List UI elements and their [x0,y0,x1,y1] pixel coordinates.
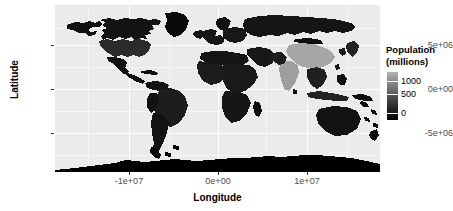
legend-label-1000: 1000 [401,77,421,86]
country-southeast-asia [307,67,327,89]
world-population-map-figure: Latitude 5e+06 0e+00 -5e+06 [0,0,453,211]
country-mexico [107,57,129,75]
country-new-zealand [369,129,379,141]
country-russia [243,15,355,37]
y-tick-mark-neg5e06 [51,133,54,134]
island-falklands [165,152,171,157]
country-canada [99,18,161,40]
country-central-america [127,73,145,84]
x-tick-mark-neg1e07 [129,172,130,175]
x-tick-mark-0e00 [218,172,219,175]
region-southern-africa [222,91,251,123]
y-axis-title: Latitude [9,40,20,120]
region-europe-east [223,27,247,43]
y-tick-mark-5e06 [51,45,54,46]
country-united-states [99,39,151,57]
legend-tick-1000 [387,81,398,82]
x-tick-mark-1e07 [307,172,308,175]
region-central-east-africa [222,65,258,93]
country-taiwan [335,64,340,70]
legend-label-0: 0 [401,109,406,118]
x-axis-title: Longitude [55,192,380,203]
region-europe-west [202,29,225,45]
legend-label-500: 500 [401,90,416,99]
country-british-isles [193,30,204,39]
country-mongolia [294,38,323,44]
country-caribbean [141,70,159,75]
legend-tick-500 [387,94,398,95]
country-madagascar [253,101,262,117]
countries-layer [55,12,380,172]
x-tick-label-1e07: 1e+07 [277,176,337,186]
x-tick-label-neg1e07: -1e+07 [99,176,159,186]
country-canada-alaska [67,21,103,36]
legend-colorbar-group: 1000 500 0 [386,72,453,124]
world-map-layer [55,5,380,172]
x-tick-label-0e00: 0e+00 [188,176,248,186]
legend-tick-0 [387,113,398,114]
country-australia [316,106,361,136]
country-new-guinea [351,94,373,101]
legend-title-line2: (millions) [386,56,453,68]
country-sri-lanka [293,89,297,94]
legend-title-line1: Population [386,44,453,56]
continent-antarctica [55,155,380,172]
country-philippines [337,74,347,85]
y-tick-label-neg5e06: -5e+06 [407,128,453,138]
country-indonesia [307,91,349,101]
legend: Population (millions) 1000 500 0 [386,44,453,124]
y-tick-mark-0e00 [51,89,54,90]
country-korea [339,48,346,56]
country-greenland [165,12,189,37]
island-south-georgia [173,145,179,150]
country-japan [346,41,359,57]
country-india [279,61,299,91]
islands-pacific [360,101,378,128]
map-panel [55,5,380,172]
